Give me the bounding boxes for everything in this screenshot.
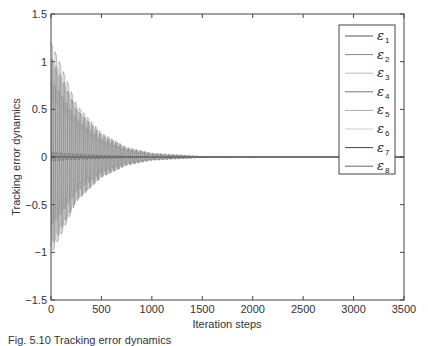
legend-subscript: 2 (385, 55, 390, 64)
x-tick-label: 1500 (190, 303, 214, 315)
legend-label: ε (377, 28, 384, 43)
legend-subscript: 5 (385, 110, 390, 119)
legend-label: ε (377, 121, 384, 136)
legend-subscript: 3 (385, 73, 390, 82)
y-tick-label: 0 (41, 151, 47, 163)
y-axis-label: Tracking error dynamics (10, 98, 22, 216)
legend-subscript: 6 (385, 129, 390, 138)
y-tick-label: −0.5 (25, 199, 47, 211)
y-tick-label: −1 (34, 246, 47, 258)
figure-caption: Fig. 5.10 Tracking error dynamics (8, 334, 171, 346)
legend-label: ε (377, 47, 384, 62)
y-tick-label: 1.5 (32, 8, 47, 20)
legend-label: ε (377, 158, 384, 173)
y-tick-label: 0.5 (32, 103, 47, 115)
x-tick-label: 1000 (140, 303, 164, 315)
y-tick-label: −1.5 (25, 294, 47, 306)
x-axis-label: Iteration steps (192, 318, 262, 330)
x-tick-label: 500 (92, 303, 110, 315)
x-tick-label: 0 (48, 303, 54, 315)
x-tick-label: 2000 (240, 303, 264, 315)
legend-label: ε (377, 65, 384, 80)
legend: ε1ε2ε3ε4ε5ε6ε7ε8 (339, 25, 395, 175)
x-tick-label: 3500 (392, 303, 416, 315)
legend-subscript: 8 (385, 166, 390, 175)
x-tick-labels: 0500100015002000250030003500 (48, 303, 416, 315)
legend-subscript: 4 (385, 92, 390, 101)
legend-label: ε (377, 102, 384, 117)
legend-label: ε (377, 84, 384, 99)
x-tick-label: 2500 (291, 303, 315, 315)
x-tick-label: 3000 (341, 303, 365, 315)
y-tick-labels: −1.5−1−0.500.511.5 (25, 8, 47, 306)
y-tick-label: 1 (41, 56, 47, 68)
legend-subscript: 1 (385, 36, 390, 45)
legend-label: ε (377, 140, 384, 155)
legend-subscript: 7 (385, 148, 390, 157)
